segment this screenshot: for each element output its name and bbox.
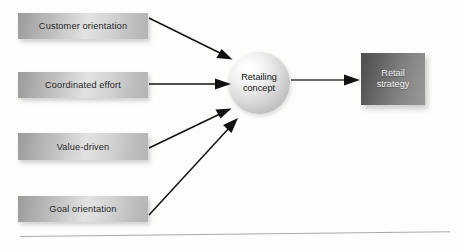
hub-label-line2: concept xyxy=(243,83,275,95)
input-box-value-driven[interactable]: Value-driven xyxy=(18,133,148,160)
output-box-retail-strategy[interactable]: Retail strategy xyxy=(361,53,425,105)
input-box-label: Coordinated effort xyxy=(45,80,121,90)
diagram-canvas: Customer orientation Coordinated effort … xyxy=(0,0,457,250)
hub-label-line1: Retailing xyxy=(241,72,277,84)
input-box-customer-orientation[interactable]: Customer orientation xyxy=(18,13,148,39)
hub-node-retailing-concept[interactable]: Retailing concept xyxy=(228,52,290,114)
input-box-label: Value-driven xyxy=(57,142,110,152)
input-box-coordinated-effort[interactable]: Coordinated effort xyxy=(18,72,148,98)
bottom-divider-rule xyxy=(20,231,450,237)
arrow-coordinated-effort-to-hub xyxy=(149,79,231,90)
arrow-value-driven-to-hub xyxy=(149,109,232,149)
arrow-customer-orientation-to-hub xyxy=(149,18,233,60)
arrow-hub-to-retail-strategy xyxy=(291,75,360,86)
output-label-line1: Retail xyxy=(381,68,405,80)
input-box-label: Customer orientation xyxy=(39,21,127,31)
output-label-line2: strategy xyxy=(377,79,410,91)
input-box-label: Goal orientation xyxy=(49,204,116,214)
arrow-goal-orientation-to-hub xyxy=(149,118,238,215)
input-box-goal-orientation[interactable]: Goal orientation xyxy=(18,196,148,222)
